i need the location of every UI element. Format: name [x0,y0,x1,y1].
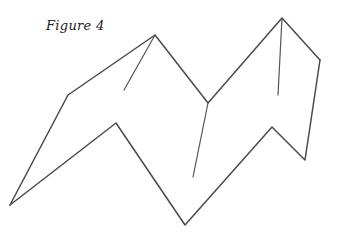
lower-outline [10,60,320,225]
folded-paper-drawing [0,0,346,240]
folded-paper-figure: Figure 4 [0,0,346,240]
crease-left-peak [124,35,155,90]
crease-right-peak [278,18,282,95]
crease-middle-valley [193,103,208,177]
upper-outline [10,18,320,205]
